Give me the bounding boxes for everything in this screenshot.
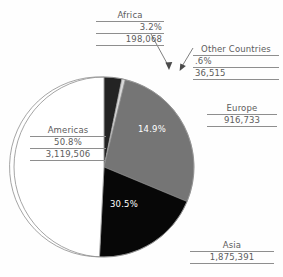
other-countries-percent: .6% [193, 56, 279, 68]
other-countries-name: Other Countries [193, 44, 279, 56]
slice-label-other-countries: Other Countries .6% 36,515 [193, 44, 279, 80]
americas-percent: 50.8% [30, 137, 106, 149]
other-countries-leader-arrow [180, 48, 193, 71]
europe-value: 916,733 [207, 115, 277, 127]
americas-name: Americas [30, 125, 106, 137]
americas-value: 3,119,506 [30, 149, 106, 161]
africa-value: 198,068 [96, 34, 164, 46]
pie-chart-figure: Africa 3.2% 198,068 Other Countries .6% … [0, 0, 283, 277]
europe-inside-percent: 14.9% [138, 124, 166, 134]
africa-percent: 3.2% [96, 22, 164, 34]
asia-inside-percent: 30.5% [110, 199, 138, 209]
pie-slice-americas [10, 77, 104, 257]
europe-name: Europe [207, 103, 277, 115]
slice-label-europe: Europe 916,733 [207, 103, 277, 127]
slice-label-asia: Asia 1,875,391 [190, 240, 274, 264]
slice-label-africa: Africa 3.2% 198,068 [96, 10, 164, 46]
asia-name: Asia [190, 240, 274, 252]
other-countries-value: 36,515 [193, 68, 279, 80]
asia-value: 1,875,391 [190, 252, 274, 264]
africa-name: Africa [96, 10, 164, 22]
slice-label-americas: Americas 50.8% 3,119,506 [30, 125, 106, 161]
